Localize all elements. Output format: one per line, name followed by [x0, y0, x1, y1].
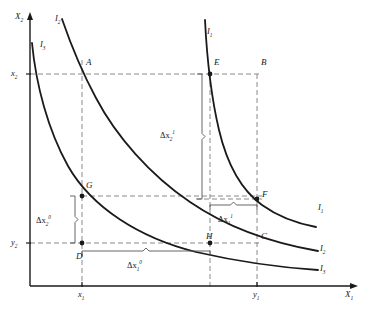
annotation-dx2_1: Δx21	[160, 130, 175, 142]
guide-lines-layer	[30, 60, 262, 286]
point-label-A: A	[86, 58, 92, 67]
x-axis-arrowhead-icon	[350, 283, 358, 289]
point-label-D: D	[76, 252, 83, 261]
brace-dx1_1	[210, 202, 257, 210]
indifference-curve-figure: x1y1x2y2X2X1I1I1I2I2I3I3Δx21Δx20Δx11Δx10…	[0, 0, 378, 314]
point-label-F: F	[262, 190, 268, 199]
annotation-dx1_0: Δx10	[127, 260, 142, 272]
x-tick-label-y1: y1	[253, 290, 259, 301]
annotation-dx2_0: Δx20	[36, 215, 51, 227]
point-label-H: H	[206, 232, 213, 241]
curve-label-I3-0: I3	[40, 40, 45, 51]
point-marker-E	[208, 72, 213, 77]
y-tick-label-y2: y2	[11, 238, 17, 249]
curve-label-I1-1: I1	[318, 203, 323, 214]
point-label-E: E	[214, 58, 220, 67]
x-axis-label: X1	[345, 290, 353, 301]
point-marker-H	[208, 241, 213, 246]
curve-label-I3-1: I3	[320, 264, 325, 275]
brace-dx2_1	[197, 74, 205, 199]
y-axis-label: X2	[15, 12, 23, 23]
point-label-C: C	[261, 232, 267, 241]
curve-label-I1-0: I1	[207, 27, 212, 38]
y-tick-label-x2: x2	[11, 69, 17, 80]
point-marker-D	[80, 241, 85, 246]
curve-label-I2-1: I2	[320, 244, 325, 255]
x-tick-label-x1: x1	[78, 290, 84, 301]
point-marker-G	[80, 194, 85, 199]
y-axis-arrowhead-icon	[27, 12, 33, 20]
curve-label-I2-0: I2	[55, 14, 60, 25]
brace-dx1_0	[82, 248, 210, 256]
point-label-B: B	[261, 58, 267, 67]
point-marker-F	[255, 197, 260, 202]
brace-dx2_0	[70, 196, 78, 243]
point-label-G: G	[86, 181, 93, 190]
annotation-dx1_1: Δx11	[218, 214, 233, 226]
